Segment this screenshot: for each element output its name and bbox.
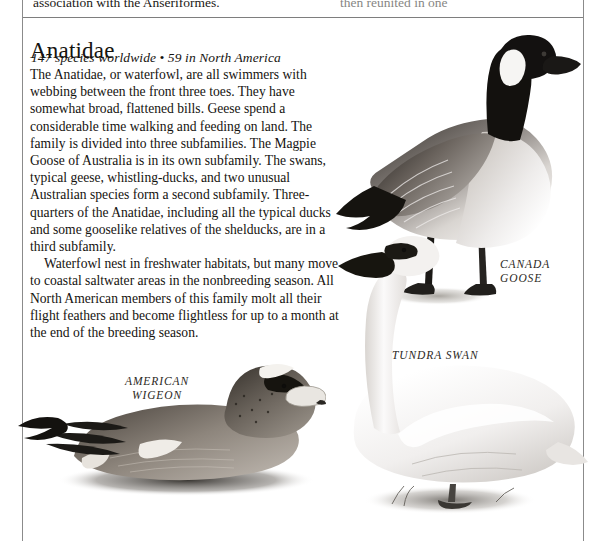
field-guide-page: association with the Anseriformes. then …: [0, 0, 605, 541]
wigeon-eye: [282, 384, 286, 388]
swan-eye: [402, 248, 406, 252]
previous-column-text-left: association with the Anseriformes.: [33, 0, 323, 10]
family-description: The Anatidae, or waterfowl, are all swim…: [30, 66, 342, 341]
american-wigeon-caption-line-1: AMERICAN: [108, 374, 206, 388]
swan-lore-patch: [384, 243, 417, 260]
section-divider-rule: [23, 17, 583, 18]
american-wigeon-caption: AMERICAN WIGEON: [108, 374, 206, 402]
description-paragraph-2: Waterfowl nest in freshwater habitats, b…: [30, 255, 342, 341]
species-count-subtitle: 147 species worldwide • 59 in North Amer…: [31, 50, 281, 66]
tundra-swan-caption: TUNDRA SWAN: [392, 348, 502, 362]
goose-bill: [543, 56, 581, 75]
previous-column-text-right: then reunited in one: [340, 0, 580, 10]
goose-eye: [542, 52, 547, 57]
description-paragraph-1: The Anatidae, or waterfowl, are all swim…: [30, 66, 342, 255]
tundra-swan-illustration: [300, 228, 590, 528]
american-wigeon-caption-line-2: WIGEON: [108, 388, 206, 402]
